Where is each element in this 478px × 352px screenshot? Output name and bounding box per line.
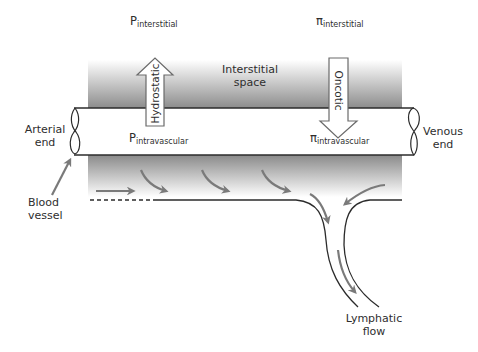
interstitial-band-bottom: [88, 155, 402, 197]
blood-vessel-pointer: [52, 160, 70, 195]
flow-arrow-4: [310, 194, 328, 222]
hydrostatic-label: Hydrostatic: [149, 63, 162, 125]
interstitial-space-label: Interstitial space: [210, 63, 290, 89]
pi-intravascular-label: πintravascular: [310, 131, 369, 146]
arterial-end-label: Arterial end: [20, 123, 70, 149]
p-interstitial-label: Pinterstitial: [130, 14, 178, 29]
p-intravascular-label: Pintravascular: [129, 131, 188, 146]
fluid-exchange-diagram: [0, 0, 478, 352]
venous-end-label: Venous end: [418, 125, 468, 151]
oncotic-label: Oncotic: [332, 66, 345, 116]
blood-vessel-label: Blood vessel: [28, 196, 72, 222]
lymphatic-flow-label: Lymphatic flow: [344, 312, 404, 338]
pi-interstitial-label: πinterstitial: [316, 14, 364, 29]
